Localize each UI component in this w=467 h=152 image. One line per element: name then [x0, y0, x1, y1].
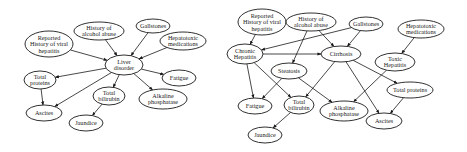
- edge-alcohol-to-steat: [293, 31, 307, 63]
- node-fatigue: Fatigue: [162, 70, 196, 86]
- node-alk: Alkalinephosphatase: [139, 89, 187, 109]
- node-label: Jaundice: [254, 131, 276, 138]
- node-fatigue: Fatigue: [238, 98, 272, 114]
- node-steat: Steatosis: [271, 63, 307, 79]
- edge-liver-to-tbili: [113, 75, 119, 88]
- node-label: bilirubin: [98, 95, 119, 102]
- node-label: Hepatitis: [234, 53, 257, 60]
- node-label: Fatigue: [170, 74, 189, 81]
- node-gall: Gallstones: [349, 17, 383, 31]
- edge-toxic-to-alk: [354, 70, 387, 102]
- node-viral: ReportedHistory of viralhepatitis: [238, 9, 286, 35]
- node-label: Fatigue: [246, 102, 265, 109]
- node-tbili: Totalbilirubin: [93, 87, 125, 105]
- node-gall: Gallstones: [136, 19, 170, 33]
- node-label: disorder: [114, 64, 134, 71]
- edge-hepatox-to-toxic: [402, 38, 415, 54]
- node-label: alcohol abuse: [82, 30, 116, 37]
- node-cirr: Cirrhosis: [321, 46, 361, 62]
- node-liver: Liverdisorder: [105, 55, 143, 75]
- node-tprot: Totalproteins: [24, 71, 56, 89]
- node-tprot: Total proteins: [387, 82, 433, 98]
- node-label: hepatitis: [252, 25, 274, 32]
- node-alcohol: History ofalcohol abuse: [74, 22, 124, 40]
- edge-gall-to-liver: [131, 33, 148, 56]
- node-jaundice: Jaundice: [248, 127, 282, 143]
- node-ascites: Ascites: [366, 113, 402, 129]
- node-alcohol: History ofalcohol abuse: [286, 13, 336, 31]
- node-label: Cirrhosis: [330, 50, 353, 57]
- edge-cirr-to-tbili: [306, 62, 335, 97]
- node-label: phosphatase: [148, 98, 178, 105]
- node-label: Ascites: [35, 109, 54, 116]
- edge-steat-to-fatigue: [262, 78, 282, 98]
- edge-viral-to-liver: [70, 50, 107, 60]
- edge-tbili-to-jaundice: [92, 104, 102, 115]
- node-tbili: Totalbilirubin: [284, 96, 314, 114]
- node-label: medications: [168, 40, 198, 47]
- node-ascites: Ascites: [26, 105, 62, 121]
- bayesian-network-diagrams: ReportedHistory of viralhepatitisHistory…: [0, 0, 467, 152]
- node-label: Hepatitis: [384, 61, 407, 68]
- edge-alcohol-to-liver: [105, 40, 117, 56]
- edge-tbili-to-jaundice: [273, 112, 291, 127]
- node-viral: ReportedHistory of viralhepatitis: [25, 31, 73, 57]
- node-label: phosphatase: [329, 110, 359, 117]
- node-jaundice: Jaundice: [69, 115, 103, 131]
- edge-liver-to-tprot: [55, 68, 106, 77]
- node-label: Ascites: [375, 117, 394, 124]
- node-label: alcohol abuse: [294, 21, 328, 28]
- edge-tprot-to-ascites: [390, 98, 403, 114]
- node-alk: Alkalinephosphatase: [320, 101, 368, 121]
- node-label: hepatitis: [39, 47, 61, 54]
- node-hepatox: Hepatotoxicmedications: [398, 20, 444, 38]
- liver-disorder-network: ReportedHistory of viralhepatitisHistory…: [24, 19, 206, 131]
- edge-alcohol-to-cirr: [319, 31, 334, 47]
- node-toxic: ToxicHepatitis: [375, 53, 415, 71]
- node-label: Gallstones: [140, 22, 167, 29]
- node-label: Total proteins: [393, 86, 428, 93]
- node-hepatox: Hepatotoxicmedications: [160, 32, 206, 50]
- edge-hepatox-to-liver: [139, 47, 167, 58]
- edge-viral-to-chronic: [250, 34, 255, 44]
- node-label: proteins: [30, 79, 51, 86]
- node-chronic: ChronicHepatitis: [227, 44, 263, 64]
- edge-gall-to-cirr: [347, 31, 360, 47]
- edge-liver-to-fatigue: [141, 69, 163, 74]
- detailed-liver-network: ReportedHistory of viralhepatitisHistory…: [227, 9, 444, 143]
- node-label: Gallstones: [353, 20, 380, 27]
- node-label: medications: [406, 28, 436, 35]
- edge-liver-to-alk: [134, 74, 153, 90]
- edge-tprot-to-ascites: [41, 89, 43, 105]
- node-label: Jaundice: [75, 119, 97, 126]
- edge-chronic-to-fatigue: [247, 64, 254, 98]
- node-label: Steatosis: [278, 67, 301, 74]
- node-label: bilirubin: [288, 104, 309, 111]
